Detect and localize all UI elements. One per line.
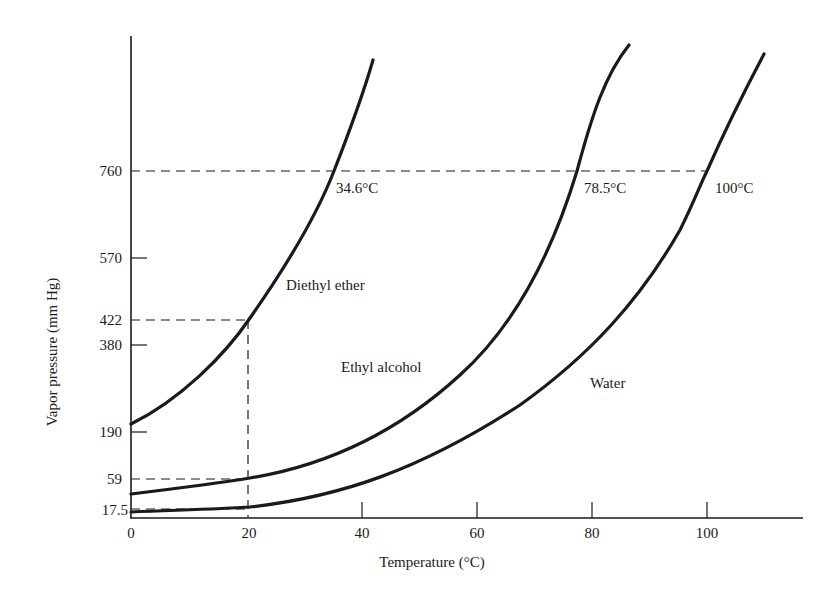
x-tick-40: 40 [355,525,370,541]
x-tick-100: 100 [696,525,719,541]
label-diethyl-ether: Diethyl ether [286,277,365,293]
y-tick-570: 570 [100,250,123,266]
reference-lines [131,171,707,518]
x-tick-80: 80 [585,525,600,541]
curve-ethyl-alcohol [131,45,629,494]
x-tick-60: 60 [470,525,485,541]
vapor-pressure-chart: 760 570 422 380 190 59 17.5 0 20 40 60 8… [0,0,834,603]
y-tick-422: 422 [100,312,123,328]
curve-water [131,54,764,512]
annotation-water-bp: 100°C [715,180,754,196]
y-tick-17-5: 17.5 [102,502,128,518]
curve-diethyl-ether [131,60,373,424]
label-ethyl-alcohol: Ethyl alcohol [341,359,421,375]
y-tick-59: 59 [107,471,122,487]
x-tick-0: 0 [127,525,135,541]
x-tick-20: 20 [242,525,257,541]
x-tick-marks [362,502,707,518]
annotation-alcohol-bp: 78.5°C [584,180,626,196]
x-axis-title: Temperature (°C) [379,554,484,571]
y-tick-760: 760 [100,163,123,179]
label-water: Water [590,375,625,391]
y-tick-380: 380 [100,337,123,353]
y-axis-title: Vapor pressure (mm Hg) [44,278,61,427]
annotation-ether-bp: 34.6°C [336,180,378,196]
y-tick-marks [131,258,147,432]
y-tick-190: 190 [100,424,123,440]
